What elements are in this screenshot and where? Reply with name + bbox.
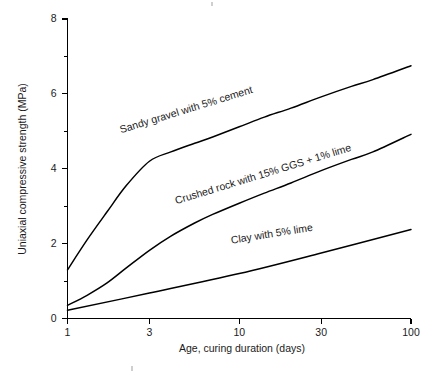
x-tick-label: 100 [402, 326, 420, 338]
x-tick-label: 30 [315, 326, 327, 338]
x-tick-label: 10 [233, 326, 245, 338]
chart-container: 02468 131030100 Sandy gravel with 5% cem… [0, 0, 433, 376]
x-axis-title: Age, curing duration (days) [179, 342, 305, 354]
series-inline-labels-group: Sandy gravel with 5% cementCrushed rock … [118, 83, 352, 245]
x-tick-label: 3 [147, 326, 153, 338]
series-line-1 [68, 134, 412, 305]
series-lines-group [68, 66, 412, 310]
y-tick-label: 0 [51, 312, 57, 324]
y-axis-title: Uniaxial compressive strength (MPa) [16, 83, 28, 255]
y-tick-label: 8 [51, 12, 57, 24]
x-axis-ticks [68, 319, 412, 324]
x-tick-label: 1 [65, 326, 71, 338]
scan-speck [211, 2, 213, 6]
series-label-2: Clay with 5% lime [230, 221, 314, 246]
series-label-1: Crushed rock with 15% GGS + 1% lime [173, 141, 352, 206]
y-tick-label: 6 [51, 87, 57, 99]
series-label-0: Sandy gravel with 5% cement [118, 83, 254, 135]
x-axis-tick-labels: 131030100 [65, 326, 420, 338]
chart-plot: 02468 131030100 Sandy gravel with 5% cem… [0, 0, 433, 376]
scan-speck-bottom [131, 366, 133, 371]
y-axis-ticks [62, 19, 68, 319]
y-tick-label: 4 [51, 162, 57, 174]
y-axis-tick-labels: 02468 [51, 12, 57, 324]
y-tick-label: 2 [51, 237, 57, 249]
